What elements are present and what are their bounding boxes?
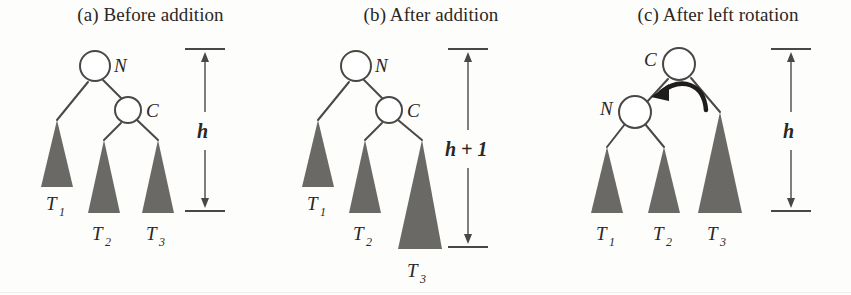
subtree-t3 (698, 112, 742, 213)
subtree-sub-t1: 1 (59, 205, 65, 219)
subtree-label-t2: T (92, 223, 104, 244)
subtree-label-t1: T (596, 223, 608, 244)
subtree-labels: T 1 T 2 T 3 (596, 223, 726, 249)
node-label-c: C (407, 100, 420, 121)
subtree-sub-t3: 3 (419, 272, 426, 286)
edge-n-to-c (364, 80, 382, 98)
height-label-a: h (197, 120, 208, 142)
panel-c-diagram: C N T 1 T 2 T 3 (565, 0, 851, 295)
edge-n-to-t1 (57, 82, 88, 120)
panel-after-left-rotation: (c) After left rotation C N T (565, 0, 851, 295)
edge-n-to-t1 (318, 82, 349, 120)
subtree-sub-t3: 3 (719, 235, 726, 249)
subtree-label-t2: T (653, 223, 665, 244)
height-label-c: h (783, 120, 794, 142)
avl-rotation-figure: (a) Before addition N C T 1 (0, 0, 851, 295)
height-label-b: h + 1 (445, 138, 488, 160)
panel-b-diagram: N C T 1 T 2 T 3 h + 1 (285, 0, 565, 295)
subtree-t2 (349, 140, 381, 213)
subtree-sub-t2: 2 (366, 235, 372, 249)
node-label-c: C (146, 100, 159, 121)
node-label-n: N (113, 55, 128, 76)
node-n-circle (80, 51, 110, 81)
height-arrowhead-up (464, 52, 472, 62)
subtree-t1 (591, 147, 623, 213)
node-n-circle (341, 51, 371, 81)
subtree-sub-t1: 1 (609, 235, 615, 249)
subtree-label-t1: T (46, 193, 58, 214)
height-arrowhead-up (201, 52, 209, 62)
subtree-t3 (398, 140, 442, 249)
edge-c-to-t2 (365, 123, 382, 140)
edge-c-to-t2 (104, 123, 121, 140)
node-c-circle (663, 48, 695, 80)
subtree-sub-t2: 2 (105, 235, 111, 249)
panel-after-addition: (b) After addition N C T 1 T 2 T 3 (285, 0, 565, 295)
edge-c-to-t3 (398, 120, 422, 140)
subtree-sub-t3: 3 (158, 235, 165, 249)
subtree-label-t2: T (353, 223, 365, 244)
subtree-sub-t2: 2 (666, 235, 672, 249)
edge-n-to-c (103, 80, 121, 98)
height-arrowhead-down (787, 198, 795, 208)
subtree-t2 (648, 147, 680, 213)
subtree-label-t3: T (146, 223, 158, 244)
panel-before-addition: (a) Before addition N C T 1 (0, 0, 285, 295)
tree-edges (57, 80, 158, 140)
height-arrowhead-up (787, 52, 795, 62)
subtree-t2 (88, 140, 120, 213)
node-c-circle (115, 97, 141, 123)
node-c-circle (376, 97, 402, 123)
panel-a-diagram: N C T 1 T 2 T 3 h (0, 0, 285, 295)
height-arrowhead-down (464, 234, 472, 244)
subtree-label-t3: T (707, 223, 719, 244)
subtree-label-t1: T (307, 193, 319, 214)
edge-c-to-t3 (137, 120, 158, 140)
subtree-t3 (142, 140, 174, 213)
subtree-label-t3: T (407, 260, 419, 281)
subtree-t1 (302, 120, 334, 187)
node-label-n: N (599, 98, 614, 119)
page-bottom-rule (0, 292, 851, 293)
subtree-t1 (41, 120, 73, 187)
node-label-n: N (374, 55, 389, 76)
edge-n-to-t2 (645, 124, 664, 147)
node-label-c: C (644, 49, 657, 70)
edge-n-to-t1 (607, 124, 625, 147)
height-arrowhead-down (201, 198, 209, 208)
node-n-circle (619, 96, 651, 128)
subtree-sub-t1: 1 (320, 205, 326, 219)
